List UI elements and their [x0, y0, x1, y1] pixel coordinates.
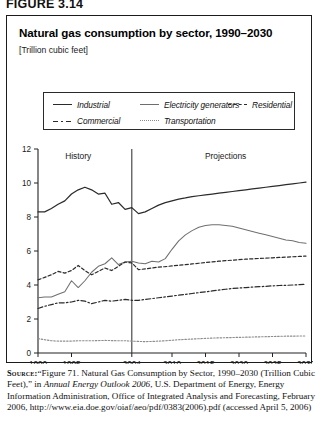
svg-text:2004: 2004 — [123, 360, 142, 364]
svg-text:1990: 1990 — [29, 360, 48, 364]
chart-units-label: [Trillion cubic feet] — [19, 45, 88, 55]
svg-text:History: History — [65, 151, 92, 161]
svg-text:Projections: Projections — [205, 151, 246, 161]
legend-item-commercial: Commercial — [53, 116, 120, 126]
chart-svg: 0246810121990199520042010201520202025203… — [7, 16, 313, 364]
svg-text:12: 12 — [22, 145, 32, 154]
series-line-industrial — [38, 182, 306, 213]
legend-item-industrial: Industrial — [53, 100, 110, 110]
source-publication-title: Annual Energy Outlook 2006 — [44, 379, 151, 389]
svg-text:2015: 2015 — [196, 360, 215, 364]
series-line-residential — [38, 256, 306, 280]
chart-legend: Industrial Electricity generators Reside… — [43, 92, 295, 130]
svg-text:2: 2 — [26, 315, 31, 324]
legend-swatch-transportation-icon — [140, 116, 159, 125]
svg-text:10: 10 — [22, 179, 32, 188]
svg-text:2020: 2020 — [230, 360, 249, 364]
svg-text:2010: 2010 — [163, 360, 182, 364]
figure-root: FIGURE 3.14 Natural gas consumption by s… — [0, 0, 324, 440]
legend-item-electricity-generators: Electricity generators — [140, 100, 239, 110]
series-line-transportation — [38, 336, 306, 342]
chart-tick-labels: 0246810121990199520042010201520202025203… — [22, 145, 313, 364]
plot-area: 0246810121990199520042010201520202025203… — [7, 16, 313, 364]
svg-text:0: 0 — [26, 349, 31, 358]
series-line-commercial — [38, 284, 306, 308]
series-line-electricity-generators — [38, 225, 306, 298]
legend-item-transportation: Transportation — [140, 116, 215, 126]
svg-text:2030: 2030 — [297, 360, 313, 364]
source-note: Source:“Figure 71. Natural Gas Consumpti… — [7, 368, 319, 414]
chart-axes — [34, 149, 306, 357]
svg-text:2025: 2025 — [263, 360, 282, 364]
svg-text:8: 8 — [26, 213, 31, 222]
legend-swatch-commercial-icon — [53, 116, 72, 125]
chart-title: Natural gas consumption by sector, 1990–… — [19, 26, 272, 39]
svg-text:4: 4 — [26, 281, 31, 290]
svg-text:6: 6 — [26, 247, 31, 256]
legend-label-industrial: Industrial — [77, 100, 110, 110]
legend-label-commercial: Commercial — [77, 116, 120, 126]
legend-item-residential: Residential — [228, 100, 292, 110]
legend-swatch-industrial-icon — [53, 100, 72, 109]
figure-number-label: FIGURE 3.14 — [6, 0, 83, 11]
source-prefix: Source: — [7, 369, 38, 378]
legend-swatch-residential-icon — [228, 100, 247, 109]
figure-frame: Natural gas consumption by sector, 1990–… — [6, 15, 312, 363]
legend-label-residential: Residential — [252, 100, 292, 110]
legend-label-transportation: Transportation — [164, 116, 215, 126]
svg-text:1995: 1995 — [62, 360, 81, 364]
chart-series — [38, 182, 306, 341]
legend-swatch-electricity-generators-icon — [140, 100, 159, 109]
